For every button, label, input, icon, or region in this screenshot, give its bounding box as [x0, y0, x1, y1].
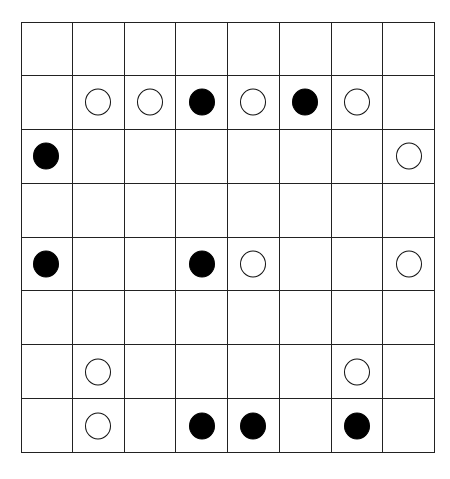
black-stone-icon[interactable]: [292, 89, 318, 116]
white-stone-icon[interactable]: [344, 358, 370, 385]
board-cell-r5-c1[interactable]: [73, 291, 125, 345]
board-cell-r6-c7[interactable]: [383, 345, 435, 399]
board-cell-r4-c7[interactable]: [383, 238, 435, 292]
white-stone-icon[interactable]: [240, 250, 266, 277]
board-cell-r1-c0[interactable]: [21, 76, 73, 130]
board-cell-r2-c7[interactable]: [383, 130, 435, 184]
board-cell-r7-c0[interactable]: [21, 399, 73, 453]
board-cell-r5-c5[interactable]: [280, 291, 332, 345]
board-cell-r3-c7[interactable]: [383, 184, 435, 238]
white-stone-icon[interactable]: [396, 250, 422, 277]
board-cell-r6-c3[interactable]: [176, 345, 228, 399]
white-stone-icon[interactable]: [344, 89, 370, 116]
board-cell-r1-c2[interactable]: [125, 76, 177, 130]
board-cell-r4-c0[interactable]: [21, 238, 73, 292]
white-stone-icon[interactable]: [240, 89, 266, 116]
board-cell-r2-c4[interactable]: [228, 130, 280, 184]
board-cell-r6-c1[interactable]: [73, 345, 125, 399]
board-cell-r7-c6[interactable]: [332, 399, 384, 453]
board-cell-r2-c5[interactable]: [280, 130, 332, 184]
black-stone-icon[interactable]: [33, 250, 59, 277]
black-stone-icon[interactable]: [33, 143, 59, 170]
board-cell-r2-c0[interactable]: [21, 130, 73, 184]
board-cell-r0-c1[interactable]: [73, 22, 125, 76]
black-stone-icon[interactable]: [189, 89, 215, 116]
white-stone-icon[interactable]: [85, 358, 111, 385]
game-board: [21, 22, 435, 453]
white-stone-icon[interactable]: [85, 412, 111, 439]
board-cell-r3-c1[interactable]: [73, 184, 125, 238]
board-cell-r6-c4[interactable]: [228, 345, 280, 399]
board-cell-r1-c1[interactable]: [73, 76, 125, 130]
black-stone-icon[interactable]: [189, 412, 215, 439]
white-stone-icon[interactable]: [396, 143, 422, 170]
board-cell-r5-c6[interactable]: [332, 291, 384, 345]
board-cell-r4-c5[interactable]: [280, 238, 332, 292]
board-cell-r1-c3[interactable]: [176, 76, 228, 130]
board-cell-r5-c2[interactable]: [125, 291, 177, 345]
board-cell-r3-c3[interactable]: [176, 184, 228, 238]
board-cell-r0-c0[interactable]: [21, 22, 73, 76]
board-cell-r4-c6[interactable]: [332, 238, 384, 292]
board-cell-r2-c1[interactable]: [73, 130, 125, 184]
board-cell-r7-c5[interactable]: [280, 399, 332, 453]
board-cell-r3-c4[interactable]: [228, 184, 280, 238]
board-cell-r4-c2[interactable]: [125, 238, 177, 292]
board-cell-r1-c4[interactable]: [228, 76, 280, 130]
board-cell-r7-c4[interactable]: [228, 399, 280, 453]
board-cell-r0-c6[interactable]: [332, 22, 384, 76]
black-stone-icon[interactable]: [189, 250, 215, 277]
white-stone-icon[interactable]: [137, 89, 163, 116]
board-cell-r1-c7[interactable]: [383, 76, 435, 130]
board-cell-r0-c2[interactable]: [125, 22, 177, 76]
board-cell-r7-c3[interactable]: [176, 399, 228, 453]
board-cell-r2-c6[interactable]: [332, 130, 384, 184]
board-cell-r2-c2[interactable]: [125, 130, 177, 184]
board-cell-r7-c1[interactable]: [73, 399, 125, 453]
board-cell-r0-c4[interactable]: [228, 22, 280, 76]
board-cell-r3-c5[interactable]: [280, 184, 332, 238]
board-cell-r6-c2[interactable]: [125, 345, 177, 399]
board-cell-r1-c6[interactable]: [332, 76, 384, 130]
white-stone-icon[interactable]: [85, 89, 111, 116]
board-cell-r6-c0[interactable]: [21, 345, 73, 399]
board-cell-r5-c4[interactable]: [228, 291, 280, 345]
board-cell-r2-c3[interactable]: [176, 130, 228, 184]
board-cell-r3-c0[interactable]: [21, 184, 73, 238]
board-cell-r7-c7[interactable]: [383, 399, 435, 453]
board-cell-r1-c5[interactable]: [280, 76, 332, 130]
board-cell-r3-c6[interactable]: [332, 184, 384, 238]
board-cell-r7-c2[interactable]: [125, 399, 177, 453]
black-stone-icon[interactable]: [344, 412, 370, 439]
board-cell-r6-c6[interactable]: [332, 345, 384, 399]
board-cell-r6-c5[interactable]: [280, 345, 332, 399]
board-cell-r5-c0[interactable]: [21, 291, 73, 345]
black-stone-icon[interactable]: [240, 412, 266, 439]
board-cell-r4-c3[interactable]: [176, 238, 228, 292]
board-cell-r5-c3[interactable]: [176, 291, 228, 345]
board-cell-r0-c7[interactable]: [383, 22, 435, 76]
board-cell-r5-c7[interactable]: [383, 291, 435, 345]
board-cell-r4-c4[interactable]: [228, 238, 280, 292]
board-cell-r3-c2[interactable]: [125, 184, 177, 238]
board-cell-r4-c1[interactable]: [73, 238, 125, 292]
board-cell-r0-c3[interactable]: [176, 22, 228, 76]
board-cell-r0-c5[interactable]: [280, 22, 332, 76]
